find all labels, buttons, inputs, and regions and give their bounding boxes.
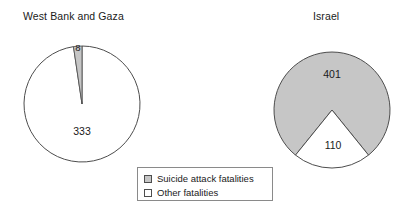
other-swatch-icon	[144, 189, 152, 197]
legend: Suicide attack fatalities Other fataliti…	[137, 167, 273, 201]
pie-value-label-suicide-israel: 401	[310, 68, 354, 80]
legend-label-suicide-attack-fatalities: Suicide attack fatalities	[157, 173, 254, 184]
suicide-swatch-icon	[144, 175, 152, 183]
legend-item-other-fatalities: Other fatalities	[144, 186, 272, 199]
chart-canvas: West Bank and Gaza 8 333 Israel 401 110 …	[0, 0, 414, 215]
pie-value-label-other-israel: 110	[311, 139, 355, 151]
legend-item-suicide-attack-fatalities: Suicide attack fatalities	[144, 172, 272, 185]
legend-label-other-fatalities: Other fatalities	[157, 187, 218, 198]
